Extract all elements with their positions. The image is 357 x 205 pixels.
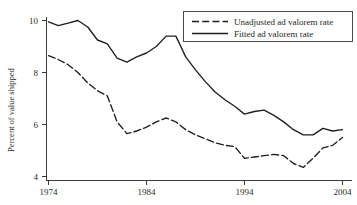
y-tick-label-4: 4 <box>34 172 39 182</box>
x-axis-ticks: 1974 1984 1994 2004 <box>40 181 353 198</box>
x-tick-label-1984: 1984 <box>138 187 157 197</box>
legend: Unadjusted ad valorem rate Fitted ad val… <box>184 12 353 42</box>
y-tick-label-10: 10 <box>29 16 39 26</box>
chart-figure: Percent of value shipped 10 8 6 4 1974 1… <box>0 0 357 205</box>
line-chart: Percent of value shipped 10 8 6 4 1974 1… <box>0 0 357 205</box>
y-tick-label-8: 8 <box>34 68 39 78</box>
legend-label-fitted: Fitted ad valorem rate <box>234 29 313 39</box>
legend-label-unadjusted: Unadjusted ad valorem rate <box>234 17 333 27</box>
y-axis-ticks: 10 8 6 4 <box>29 16 47 182</box>
y-axis-title: Percent of value shipped <box>6 67 16 152</box>
x-tick-label-1974: 1974 <box>40 187 59 197</box>
x-tick-label-1994: 1994 <box>236 187 255 197</box>
y-tick-label-6: 6 <box>34 120 39 130</box>
x-tick-label-2004: 2004 <box>334 187 353 197</box>
series-line-unadjusted-ad-valorem-rate <box>49 56 343 168</box>
